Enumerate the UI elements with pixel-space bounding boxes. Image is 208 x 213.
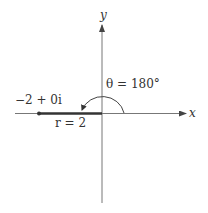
- x-axis-label: x: [189, 107, 196, 119]
- point-label: −2 + 0i: [15, 94, 62, 106]
- angle-arc: [82, 97, 124, 113]
- y-axis-label: y: [100, 9, 107, 21]
- angle-label: θ = 180°: [106, 78, 160, 90]
- modulus-label: r = 2: [55, 117, 86, 129]
- point-marker: [37, 112, 41, 116]
